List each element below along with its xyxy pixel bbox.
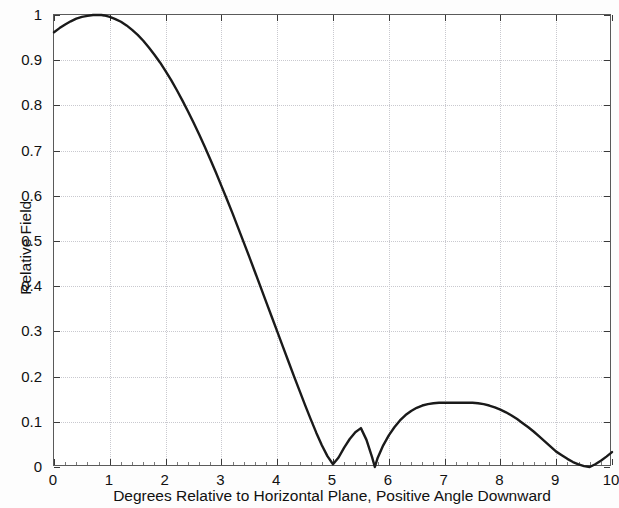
x-tick-label: 9 xyxy=(551,472,559,487)
x-axis-label: Degrees Relative to Horizontal Plane, Po… xyxy=(53,488,611,504)
x-tick-label: 3 xyxy=(216,472,224,487)
x-tick-label: 8 xyxy=(495,472,503,487)
x-tick-label: 6 xyxy=(384,472,392,487)
y-axis-label: Relative Field xyxy=(18,178,34,318)
x-tick-label: 2 xyxy=(160,472,168,487)
x-tick-label: 7 xyxy=(439,472,447,487)
x-tick-label: 5 xyxy=(328,472,336,487)
x-tick-label: 0 xyxy=(49,472,57,487)
x-tick-label: 4 xyxy=(272,472,280,487)
x-axis-tick-labels: 012345678910 xyxy=(0,0,619,508)
figure-canvas: 00.10.20.30.40.50.60.70.80.91 0123456789… xyxy=(0,0,619,508)
x-tick-label: 10 xyxy=(603,472,619,487)
x-tick-label: 1 xyxy=(105,472,113,487)
